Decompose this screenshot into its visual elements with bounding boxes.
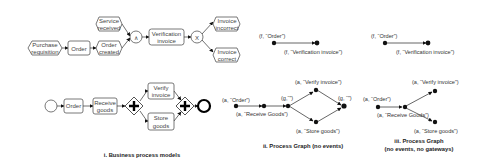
node-label: (g, “”) xyxy=(338,95,352,101)
label: goods xyxy=(97,107,113,113)
label: goods xyxy=(153,123,169,129)
edge xyxy=(140,111,148,121)
event-service-received: Service received xyxy=(96,17,122,31)
node xyxy=(433,89,437,93)
xor-symbol: X xyxy=(195,35,199,41)
caption-process-graph-line1: iii. Process Graph xyxy=(394,138,444,144)
node xyxy=(383,41,387,45)
event-purchase-requisition: Purchase requisition xyxy=(28,41,62,55)
edge xyxy=(174,112,181,121)
label: Order xyxy=(66,103,81,109)
edge xyxy=(122,38,130,48)
event-invoice-incorrect: Invoice incorrect xyxy=(213,17,240,31)
edge xyxy=(202,22,213,34)
panel2-top-graph: (f, “Order”) (f, “Verification invoice”) xyxy=(259,33,343,55)
label: invoice xyxy=(157,38,176,44)
label: Order xyxy=(71,46,86,52)
node xyxy=(426,41,431,46)
node-label: (a, “Store goods”) xyxy=(296,128,340,134)
xor-connector: X xyxy=(191,31,203,43)
caption-business-process-models: i. Business process models xyxy=(104,152,180,158)
panel3-top-graph: (f, “Order”) (f, “Verification invoice”) xyxy=(371,33,455,55)
label: created xyxy=(99,49,119,55)
parallel-gateway-join xyxy=(176,97,194,115)
label: received xyxy=(98,25,121,31)
node xyxy=(314,88,318,92)
label: Receive xyxy=(94,100,116,106)
node-label: (a, “Store goods”) xyxy=(414,128,458,134)
edge xyxy=(289,106,313,121)
label: Service xyxy=(99,18,120,24)
end-event xyxy=(198,100,210,112)
and-connector: ∧ xyxy=(130,31,142,43)
label: Store xyxy=(154,115,169,121)
label: incorrect xyxy=(215,25,238,31)
label: Order xyxy=(101,42,116,48)
node-label: (a, “Receive Goods”) xyxy=(377,112,429,118)
bpmn-model: Order Receive goods Verify invoice Store… xyxy=(45,83,210,130)
label: Invoice xyxy=(217,49,237,55)
edge xyxy=(140,91,148,101)
event-invoice-correct: Invoice correct xyxy=(213,48,240,62)
start-event xyxy=(45,100,57,112)
node xyxy=(234,104,238,108)
function-order: Order xyxy=(68,41,90,55)
node-label: (a, “Order”) xyxy=(222,97,250,103)
node-label: (a, “Order”) xyxy=(363,96,391,102)
node xyxy=(314,120,318,124)
node-label: (f, “Verification invoice”) xyxy=(396,49,455,55)
diagram-canvas: Purchase requisition Order Order created… xyxy=(0,0,488,164)
node xyxy=(272,41,276,45)
panel3-bottom-graph: (a, “Order”) (a, “Receive Goods”) (a, “V… xyxy=(363,79,459,134)
node-label: (f, “Order”) xyxy=(371,33,398,39)
node xyxy=(341,103,346,108)
task-store-goods: Store goods xyxy=(148,113,174,130)
label: invoice xyxy=(152,92,171,98)
node xyxy=(433,120,437,124)
label: requisition xyxy=(31,49,58,55)
node-label: (f, “Verification invoice”) xyxy=(284,49,343,55)
node-label: (a, “Receive Goods”) xyxy=(236,111,288,117)
caption-process-graph-no-events: ii. Process Graph (no events) xyxy=(263,143,343,149)
node xyxy=(315,41,320,46)
edge xyxy=(317,108,341,122)
event-order-created: Order created xyxy=(96,41,122,55)
edge xyxy=(202,40,213,52)
panel2-bottom-graph: (a, “Order”) (a, “Receive Goods”) (g,“”)… xyxy=(222,79,352,134)
node xyxy=(262,104,266,108)
edge xyxy=(174,91,181,100)
label: Verify xyxy=(153,85,168,91)
label: Invoice xyxy=(217,18,237,24)
edge xyxy=(406,92,432,106)
node xyxy=(403,105,407,109)
function-verification-invoice: Verification invoice xyxy=(149,29,184,45)
task-verify-invoice: Verify invoice xyxy=(148,83,174,99)
task-order: Order xyxy=(64,99,83,113)
label: Purchase xyxy=(32,42,58,48)
parallel-gateway-split xyxy=(125,97,143,115)
label: Verification xyxy=(152,31,181,37)
task-receive-goods: Receive goods xyxy=(93,98,117,114)
node-label: (a, “Verify invoice”) xyxy=(295,79,342,85)
node xyxy=(286,104,290,108)
node-label: (g,“”) xyxy=(281,95,293,101)
and-symbol: ∧ xyxy=(134,35,138,41)
node-label: (f, “Order”) xyxy=(259,33,286,39)
caption-process-graph-line2: (no events, no gateways) xyxy=(385,146,454,152)
node-label: (a, “Verify invoice”) xyxy=(412,79,459,85)
label: correct xyxy=(218,56,237,62)
epc-model: Purchase requisition Order Order created… xyxy=(28,17,240,62)
edge xyxy=(122,24,130,36)
node xyxy=(376,105,380,109)
